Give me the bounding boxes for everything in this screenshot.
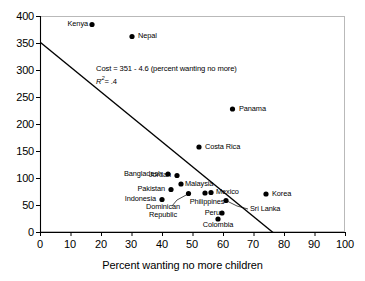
- point-label-philippines: Philippines: [182, 198, 232, 206]
- annotation-r-squared: R2= .4: [96, 74, 117, 86]
- y-tick-150: 150: [0, 146, 34, 157]
- point-label-korea: Korea: [272, 190, 291, 198]
- x-tick-90: 90: [299, 239, 329, 250]
- point-label-panama: Panama: [239, 105, 266, 113]
- point-label-kenya: Kenya: [32, 20, 88, 28]
- x-tick-marks: [41, 232, 346, 236]
- point-label-nepal: Nepal: [138, 32, 157, 40]
- point-label-malaysia: Malaysia: [185, 180, 213, 188]
- y-tick-50: 50: [0, 200, 34, 211]
- point-label-sri-lanka: Sri Lanka: [250, 205, 280, 213]
- r-squared-value: = .4: [104, 77, 116, 86]
- x-tick-10: 10: [55, 239, 85, 250]
- annotation-equation: Cost = 351 - 4.6 (percent wanting no mor…: [96, 64, 237, 74]
- point-label-dominican-republic-line2: Republic: [140, 211, 186, 219]
- x-tick-80: 80: [269, 239, 299, 250]
- point-label-mexico: Mexico: [216, 188, 239, 196]
- x-axis-title: Percent wanting no more children: [0, 259, 365, 271]
- y-tick-200: 200: [0, 119, 34, 130]
- x-tick-100: 100: [330, 239, 360, 250]
- point-label-colombia: Colombia: [194, 221, 242, 229]
- x-tick-20: 20: [86, 239, 116, 250]
- y-tick-300: 300: [0, 65, 34, 76]
- point-label-costa-rica: Costa Rica: [205, 143, 240, 151]
- scatter-chart: 400 350 300 250 200 150 100 50 0 0 10 20…: [0, 0, 365, 281]
- y-tick-400: 400: [0, 11, 34, 22]
- x-tick-0: 0: [25, 239, 55, 250]
- x-tick-50: 50: [177, 239, 207, 250]
- x-tick-70: 70: [238, 239, 268, 250]
- y-tick-350: 350: [0, 38, 34, 49]
- y-tick-0: 0: [0, 227, 34, 238]
- point-label-jordan: Jordan: [134, 171, 171, 179]
- x-tick-30: 30: [116, 239, 146, 250]
- x-tick-40: 40: [147, 239, 177, 250]
- point-label-peru: Peru: [188, 209, 220, 217]
- x-tick-60: 60: [208, 239, 238, 250]
- y-tick-100: 100: [0, 173, 34, 184]
- y-tick-250: 250: [0, 92, 34, 103]
- point-label-pakistan: Pakistan: [120, 185, 165, 193]
